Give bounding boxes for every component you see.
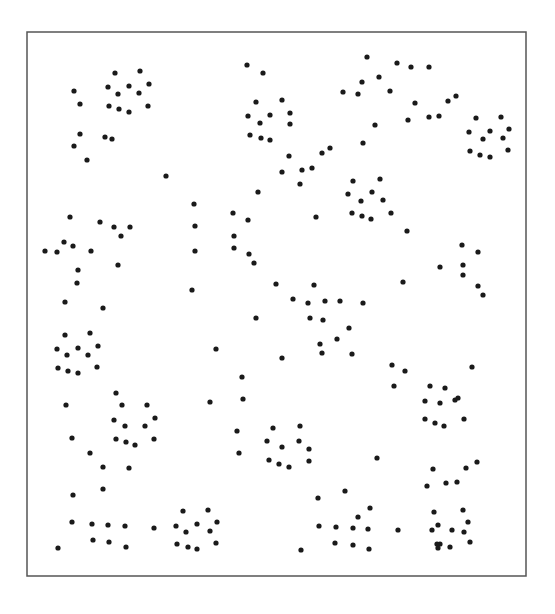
data-point bbox=[106, 103, 111, 108]
data-point bbox=[372, 122, 377, 127]
data-point bbox=[360, 140, 365, 145]
data-point bbox=[192, 248, 197, 253]
data-point bbox=[316, 523, 321, 528]
data-point bbox=[313, 214, 318, 219]
data-point bbox=[90, 537, 95, 542]
data-point bbox=[142, 423, 147, 428]
data-point bbox=[245, 217, 250, 222]
data-point bbox=[345, 191, 350, 196]
data-point bbox=[244, 62, 249, 67]
data-point bbox=[350, 178, 355, 183]
data-point bbox=[152, 415, 157, 420]
data-point bbox=[100, 305, 105, 310]
data-point bbox=[264, 438, 269, 443]
data-point bbox=[239, 374, 244, 379]
data-point bbox=[480, 136, 485, 141]
data-point bbox=[105, 84, 110, 89]
data-point bbox=[102, 134, 107, 139]
data-point bbox=[109, 136, 114, 141]
data-point bbox=[429, 527, 434, 532]
data-point bbox=[87, 330, 92, 335]
data-point bbox=[88, 248, 93, 253]
data-point bbox=[355, 514, 360, 519]
data-point bbox=[180, 508, 185, 513]
scatter-plot bbox=[0, 0, 555, 614]
data-point bbox=[69, 435, 74, 440]
data-point bbox=[319, 150, 324, 155]
data-point bbox=[279, 169, 284, 174]
data-point bbox=[55, 365, 60, 370]
data-point bbox=[306, 458, 311, 463]
data-point bbox=[460, 262, 465, 267]
data-point bbox=[213, 540, 218, 545]
data-point bbox=[349, 210, 354, 215]
data-point bbox=[364, 54, 369, 59]
data-point bbox=[426, 114, 431, 119]
data-point bbox=[70, 243, 75, 248]
data-point bbox=[100, 486, 105, 491]
data-point bbox=[106, 539, 111, 544]
data-point bbox=[122, 423, 127, 428]
data-point bbox=[231, 233, 236, 238]
data-point bbox=[365, 526, 370, 531]
data-point bbox=[145, 103, 150, 108]
data-point bbox=[71, 88, 76, 93]
data-point bbox=[445, 98, 450, 103]
data-point bbox=[61, 239, 66, 244]
data-point bbox=[118, 233, 123, 238]
data-point bbox=[441, 423, 446, 428]
data-point bbox=[333, 524, 338, 529]
data-point bbox=[369, 189, 374, 194]
data-point bbox=[151, 525, 156, 530]
data-point bbox=[55, 545, 60, 550]
data-point bbox=[469, 364, 474, 369]
data-point bbox=[297, 423, 302, 428]
data-point bbox=[359, 213, 364, 218]
data-point bbox=[127, 224, 132, 229]
data-point bbox=[69, 519, 74, 524]
data-point bbox=[466, 129, 471, 134]
data-point bbox=[276, 461, 281, 466]
data-point bbox=[460, 272, 465, 277]
data-point bbox=[174, 541, 179, 546]
data-point bbox=[317, 341, 322, 346]
data-point bbox=[408, 64, 413, 69]
data-point bbox=[189, 287, 194, 292]
data-point bbox=[77, 101, 82, 106]
data-point bbox=[62, 332, 67, 337]
data-point bbox=[355, 91, 360, 96]
data-point bbox=[334, 336, 339, 341]
data-point bbox=[230, 210, 235, 215]
data-point bbox=[332, 540, 337, 545]
data-point bbox=[85, 352, 90, 357]
plot-background bbox=[0, 0, 555, 614]
data-point bbox=[279, 97, 284, 102]
data-point bbox=[71, 143, 76, 148]
data-point bbox=[126, 83, 131, 88]
data-point bbox=[432, 420, 437, 425]
data-point bbox=[374, 455, 379, 460]
data-point bbox=[366, 546, 371, 551]
data-point bbox=[455, 395, 460, 400]
data-point bbox=[255, 189, 260, 194]
data-point bbox=[437, 264, 442, 269]
data-point bbox=[359, 79, 364, 84]
data-point bbox=[395, 527, 400, 532]
data-point bbox=[260, 70, 265, 75]
data-point bbox=[287, 121, 292, 126]
data-point bbox=[77, 131, 82, 136]
data-point bbox=[487, 128, 492, 133]
data-point bbox=[137, 68, 142, 73]
data-point bbox=[267, 112, 272, 117]
data-point bbox=[315, 495, 320, 500]
data-point bbox=[194, 546, 199, 551]
data-point bbox=[123, 439, 128, 444]
data-point bbox=[461, 416, 466, 421]
data-point bbox=[173, 523, 178, 528]
data-point bbox=[505, 147, 510, 152]
data-point bbox=[400, 279, 405, 284]
data-point bbox=[116, 106, 121, 111]
data-point bbox=[297, 181, 302, 186]
data-point bbox=[467, 539, 472, 544]
data-point bbox=[253, 99, 258, 104]
